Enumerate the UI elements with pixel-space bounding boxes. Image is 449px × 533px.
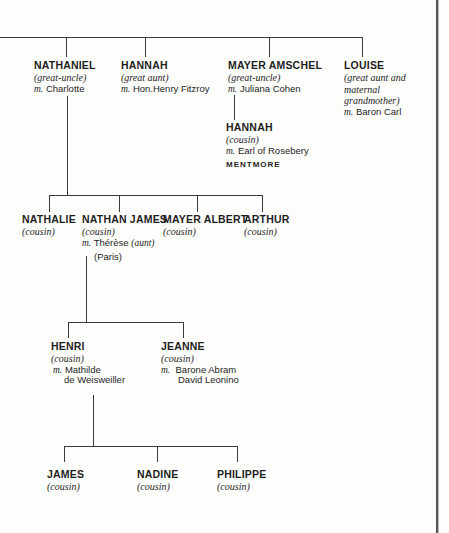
spouse-name: Hon.Henry Fitzroy	[133, 83, 210, 94]
married-prefix: m.	[53, 365, 62, 375]
spouse-name: Barone Abram	[176, 364, 237, 375]
person-hannah-rosebery: HANNAH (cousin) m. Earl of Rosebery MENT…	[226, 121, 309, 170]
person-nadine: NADINE (cousin)	[137, 468, 178, 493]
connector-nadine	[157, 446, 158, 462]
connector-nathalie	[49, 195, 50, 212]
married-prefix: m.	[161, 365, 170, 375]
relation-label: (cousin)	[47, 481, 84, 493]
relation-label: (cousin)	[244, 226, 290, 238]
person-name: ARTHUR	[244, 213, 290, 225]
person-name: NATHANIEL	[34, 59, 96, 71]
person-mayer-albert: MAYER ALBERT (cousin)	[163, 213, 247, 238]
connector-gen2-horizontal	[49, 195, 263, 196]
person-name: NATHAN JAMES	[82, 213, 167, 225]
person-nathaniel: NATHANIEL (great-uncle) m. Charlotte	[34, 59, 96, 94]
connector-philippe	[237, 446, 238, 462]
spouse-name-continued: de Weisweiller	[64, 375, 125, 386]
person-name: NADINE	[137, 468, 178, 480]
connector-nathan-james-down	[86, 256, 87, 322]
married-prefix: m.	[34, 84, 43, 94]
connector-mayer-amschel	[269, 37, 270, 57]
spouse-name: Charlotte	[46, 83, 85, 94]
connector-james	[64, 446, 65, 462]
connector-henri-down	[93, 395, 94, 446]
spouse-line: m. Thérèse (aunt)	[82, 238, 167, 249]
person-name: HANNAH	[226, 121, 309, 133]
connector-mayer-to-hannah	[234, 95, 235, 120]
person-henri: HENRI (cousin) m. Mathilde de Weisweille…	[51, 340, 125, 386]
spouse-name: Juliana Cohen	[240, 83, 301, 94]
estate-label: MENTMORE	[226, 160, 309, 169]
person-name: HANNAH	[121, 59, 209, 71]
spouse-line: m. Juliana Cohen	[228, 84, 322, 95]
connector-henri	[68, 322, 69, 338]
relation-label: (cousin)	[163, 226, 247, 238]
connector-nathaniel-down	[67, 96, 68, 195]
relation-label: (cousin)	[137, 481, 178, 493]
person-mayer-amschel: MAYER AMSCHEL (great-uncle) m. Juliana C…	[228, 59, 322, 94]
connector-mayer-albert	[197, 195, 198, 212]
connector-gen1-horizontal	[0, 37, 363, 38]
person-name: PHILIPPE	[217, 468, 266, 480]
spouse-name: Mathilde	[65, 364, 101, 375]
place-label: (Paris)	[94, 252, 167, 263]
person-name: NATHALIE	[22, 213, 76, 225]
connector-nathan-james	[119, 195, 120, 212]
person-name: JAMES	[47, 468, 84, 480]
relation-label: (cousin)	[22, 226, 76, 238]
person-louise: LOUISE (great aunt and maternal grandmot…	[344, 59, 406, 117]
person-arthur: ARTHUR (cousin)	[244, 213, 290, 238]
relation-label: (great aunt and	[344, 72, 406, 84]
spouse-name: Earl of Rosebery	[238, 145, 309, 156]
relation-label: maternal	[344, 84, 406, 96]
connector-jeanne	[183, 322, 184, 338]
married-prefix: m.	[82, 238, 91, 248]
person-philippe: PHILIPPE (cousin)	[217, 468, 266, 493]
person-hannah-fitzroy: HANNAH (great aunt) m. Hon.Henry Fitzroy	[121, 59, 209, 94]
person-name: MAYER ALBERT	[163, 213, 247, 225]
connector-nathaniel	[66, 37, 67, 57]
person-nathan-james: NATHAN JAMES (cousin) m. Thérèse (aunt) …	[82, 213, 167, 263]
married-prefix: m.	[228, 84, 237, 94]
connector-hannah	[145, 37, 146, 57]
person-name: LOUISE	[344, 59, 406, 71]
connector-gen4-horizontal	[64, 446, 238, 447]
connector-arthur	[262, 195, 263, 212]
spouse-name: Baron Carl	[356, 106, 401, 117]
person-name: MAYER AMSCHEL	[228, 59, 322, 71]
married-prefix: m.	[121, 84, 130, 94]
married-prefix: m.	[344, 107, 353, 117]
relation-label: (cousin)	[217, 481, 266, 493]
spouse-line: m. Charlotte	[34, 84, 96, 95]
person-jeanne: JEANNE (cousin) m. Barone Abram David Le…	[161, 340, 239, 386]
connector-louise	[362, 37, 363, 57]
connector-gen3-horizontal	[68, 322, 184, 323]
person-nathalie: NATHALIE (cousin)	[22, 213, 76, 238]
person-james: JAMES (cousin)	[47, 468, 84, 493]
spouse-note: (aunt)	[131, 238, 154, 248]
spouse-line: m. Baron Carl	[344, 107, 406, 118]
spouse-name: Thérèse	[94, 237, 129, 248]
married-prefix: m.	[226, 146, 235, 156]
person-name: HENRI	[51, 340, 125, 352]
spouse-line: m. Earl of Rosebery	[226, 146, 309, 157]
person-name: JEANNE	[161, 340, 239, 352]
spouse-line: m. Hon.Henry Fitzroy	[121, 84, 209, 95]
page-border-rule	[436, 0, 438, 533]
spouse-name-continued: David Leonino	[178, 375, 239, 386]
